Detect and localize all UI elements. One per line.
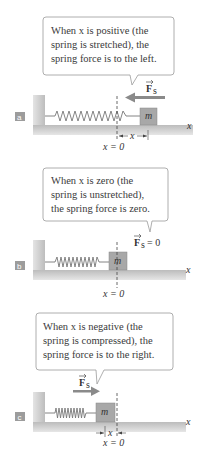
wall bbox=[33, 392, 45, 427]
caption-line: the spring force is zero. bbox=[51, 203, 150, 214]
origin-label: x = 0 bbox=[102, 437, 124, 448]
force-subscript: s bbox=[86, 379, 90, 390]
force-subscript: s bbox=[153, 85, 157, 96]
caption-bubble: When x is negative (the spring is compre… bbox=[36, 313, 173, 384]
force-label: F bbox=[134, 237, 140, 248]
spring-stretched bbox=[45, 111, 140, 121]
caption-line: When x is zero (the bbox=[51, 175, 134, 187]
panel-tag-label: a bbox=[17, 113, 22, 122]
wall bbox=[33, 240, 45, 275]
panel-c: When x is negative (the spring is compre… bbox=[15, 313, 191, 448]
caption-line: When x is positive (the bbox=[51, 25, 149, 37]
caption-line: spring force is to the right. bbox=[43, 349, 154, 360]
origin-label: x = 0 bbox=[102, 141, 124, 152]
force-value: = 0 bbox=[147, 237, 160, 248]
caption-line: spring force is to the left. bbox=[51, 53, 157, 64]
mass-label: m bbox=[101, 406, 108, 417]
panel-b: When x is zero (the spring is unstretche… bbox=[15, 168, 191, 299]
floor bbox=[33, 270, 186, 280]
caption-line: spring is unstretched), bbox=[51, 189, 144, 201]
axis-label: x bbox=[185, 264, 191, 275]
caption-bubble: When x is zero (the spring is unstretche… bbox=[43, 168, 168, 232]
spring-force-diagram: When x is positive (the spring is stretc… bbox=[0, 0, 199, 463]
force-subscript: s bbox=[141, 239, 145, 250]
axis-label: x bbox=[186, 120, 192, 131]
wall bbox=[33, 95, 45, 130]
displacement-label: x bbox=[129, 130, 135, 141]
caption-line: When x is negative (the bbox=[43, 321, 143, 333]
axis-label: x bbox=[185, 416, 191, 427]
origin-label: x = 0 bbox=[102, 288, 124, 299]
caption-line: spring is stretched), the bbox=[51, 39, 149, 51]
force-label: F bbox=[79, 377, 85, 388]
spring-unstretched bbox=[45, 257, 109, 267]
panel-tag-label: b bbox=[17, 262, 22, 271]
caption-bubble: When x is positive (the spring is stretc… bbox=[43, 17, 174, 85]
mass-label: m bbox=[114, 255, 121, 266]
caption-line: spring is compressed), the bbox=[43, 335, 153, 347]
spring-compressed bbox=[45, 408, 96, 418]
floor bbox=[33, 125, 193, 135]
force-arrow-left-icon bbox=[125, 93, 165, 103]
panel-a: When x is positive (the spring is stretc… bbox=[15, 17, 193, 152]
panel-tag-label: c bbox=[18, 413, 22, 422]
force-label: F bbox=[146, 83, 152, 94]
mass-label: m bbox=[145, 110, 152, 121]
